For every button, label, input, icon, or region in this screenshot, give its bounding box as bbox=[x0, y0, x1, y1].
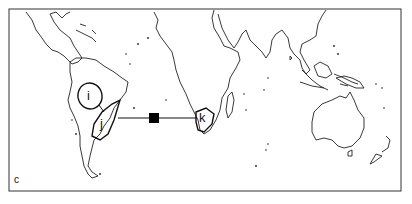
region-label-j: j bbox=[99, 116, 103, 131]
region-label-i: i bbox=[87, 88, 90, 103]
connector-square-marker bbox=[149, 113, 159, 123]
panel-label: c bbox=[14, 174, 19, 185]
region-label-k: k bbox=[199, 110, 206, 125]
world-map: i j k c bbox=[0, 0, 412, 204]
